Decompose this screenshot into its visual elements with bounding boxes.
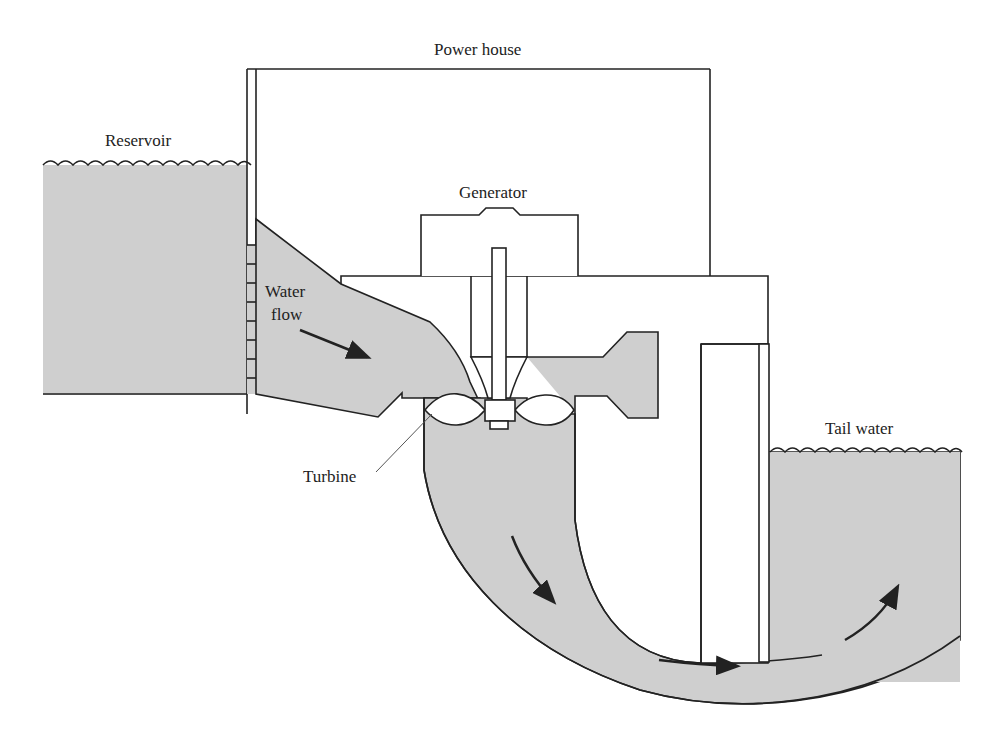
water-flow-label-line2: flow xyxy=(271,305,303,324)
water-flow-label-line1: Water xyxy=(265,282,305,301)
gate-wall xyxy=(759,344,769,662)
power-house-label: Power house xyxy=(434,40,521,59)
generator-label: Generator xyxy=(459,183,527,202)
reservoir-surface-waves xyxy=(43,161,251,165)
turbine-shaft xyxy=(492,248,506,400)
tail-water xyxy=(768,452,960,682)
penstock-and-draft-tube xyxy=(256,219,962,704)
outlet-pier xyxy=(701,344,769,663)
turbine-label: Turbine xyxy=(303,467,356,486)
turbine-hub xyxy=(485,400,515,421)
reservoir-label: Reservoir xyxy=(105,131,171,150)
reservoir xyxy=(43,161,251,395)
intake-grate xyxy=(247,245,256,394)
hydroelectric-diagram: Power house Reservoir Generator Water fl… xyxy=(0,0,999,739)
tail-water-label: Tail water xyxy=(825,419,894,438)
